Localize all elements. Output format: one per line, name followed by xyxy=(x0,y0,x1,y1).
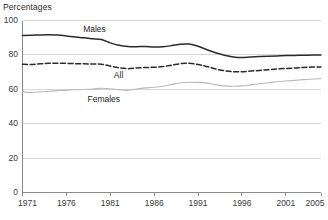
y-tick-label-40: 40 xyxy=(0,118,18,128)
x-tick-label-1976: 1976 xyxy=(57,198,76,208)
y-tick-label-100: 100 xyxy=(0,15,18,25)
y-tick-label-60: 60 xyxy=(0,84,18,94)
series-label-females: Females xyxy=(88,94,121,104)
line-chart-plot xyxy=(0,0,328,220)
x-tick-label-2001: 2001 xyxy=(276,198,295,208)
y-tick-label-80: 80 xyxy=(0,49,18,59)
series-label-males: Males xyxy=(83,24,106,34)
series-label-all: All xyxy=(114,70,123,80)
x-tick-label-2005: 2005 xyxy=(306,198,325,208)
x-tick-label-1991: 1991 xyxy=(189,198,208,208)
x-tick-label-1996: 1996 xyxy=(233,198,252,208)
series-line-males xyxy=(23,35,322,58)
series-line-females xyxy=(23,79,322,93)
x-tick-label-1971: 1971 xyxy=(18,198,37,208)
y-tick-label-0: 0 xyxy=(0,187,18,197)
chart-container: Percentages 020406080100 197119761981198… xyxy=(0,0,328,220)
y-tick-label-20: 20 xyxy=(0,153,18,163)
x-tick-label-1986: 1986 xyxy=(145,198,164,208)
series-line-all xyxy=(23,63,322,72)
x-tick-label-1981: 1981 xyxy=(101,198,120,208)
